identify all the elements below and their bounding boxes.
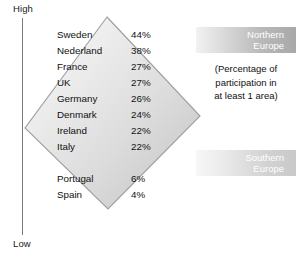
country-row: Nederland38% — [57, 43, 167, 59]
country-value: 27% — [131, 75, 151, 91]
country-value: 38% — [131, 43, 151, 59]
country-row: France27% — [57, 59, 167, 75]
country-row: Germany26% — [57, 91, 167, 107]
note-line-2: participation in — [198, 76, 294, 90]
country-row: Spain4% — [57, 187, 167, 203]
country-name: Ireland — [57, 123, 87, 139]
country-name: UK — [57, 75, 71, 91]
axis-label-high: High — [13, 3, 33, 14]
diagram-canvas: High Low Northern Europe (Percentage of … — [0, 0, 296, 257]
note-line-1: (Percentage of — [198, 62, 294, 76]
country-name: Germany — [57, 91, 97, 107]
banner-southern-europe: Southern Europe — [196, 150, 296, 176]
country-name: France — [57, 59, 88, 75]
country-list: Sweden44%Nederland38%France27%UK27%Germa… — [57, 27, 167, 203]
country-name: Nederland — [57, 43, 102, 59]
country-value: 22% — [131, 123, 151, 139]
banner-northern-line2: Europe — [247, 40, 284, 51]
banner-northern-line1: Northern — [247, 29, 284, 40]
country-row: Sweden44% — [57, 27, 167, 43]
country-name: Spain — [57, 187, 82, 203]
country-value: 26% — [131, 91, 151, 107]
note-text: (Percentage of participation in at least… — [198, 62, 294, 103]
banner-northern-europe: Northern Europe — [196, 27, 296, 53]
country-row: Italy22% — [57, 139, 167, 155]
country-value: 24% — [131, 107, 151, 123]
country-name: Portugal — [57, 171, 94, 187]
country-value: 22% — [131, 139, 151, 155]
axis-label-low: Low — [13, 238, 31, 249]
vertical-axis-line — [22, 18, 23, 235]
country-name: Italy — [57, 139, 75, 155]
country-name: Sweden — [57, 27, 92, 43]
country-row: UK27% — [57, 75, 167, 91]
banner-southern-line1: Southern — [245, 152, 284, 163]
country-value: 27% — [131, 59, 151, 75]
note-line-3: at least 1 area) — [198, 89, 294, 103]
country-row: Portugal6% — [57, 171, 167, 187]
country-value: 4% — [131, 187, 145, 203]
banner-southern-line2: Europe — [245, 163, 284, 174]
country-row: Denmark24% — [57, 107, 167, 123]
country-name: Denmark — [57, 107, 97, 123]
country-value: 6% — [131, 171, 145, 187]
country-value: 44% — [131, 27, 151, 43]
country-row: Ireland22% — [57, 123, 167, 139]
